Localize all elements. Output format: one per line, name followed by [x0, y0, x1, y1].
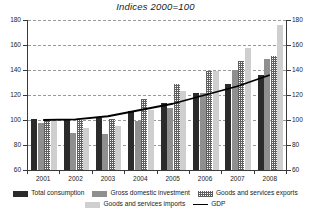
black-line-swatch: [193, 202, 208, 208]
legend-row-primary: Total consumptionGross domestic investme…: [0, 188, 311, 199]
x-axis-tick: [221, 170, 222, 174]
x-axis-tick-label: 2004: [124, 176, 156, 183]
hatched-swatch: [198, 191, 213, 197]
light-gray-swatch: [85, 202, 100, 208]
x-axis-tick-label: 2007: [221, 176, 253, 183]
x-axis-tick-label: 2005: [157, 176, 189, 183]
y-axis-tick-label: 160: [292, 42, 311, 49]
x-axis-tick-label: 2002: [59, 176, 91, 183]
x-axis-tick-label: 2003: [92, 176, 124, 183]
chart-legend: Total consumptionGross domestic investme…: [0, 188, 311, 210]
x-axis-tick: [124, 170, 125, 174]
x-axis-tick-label: 2008: [254, 176, 286, 183]
legend-item-label: Gross domestic investment: [110, 190, 190, 197]
x-axis-tick: [157, 170, 158, 174]
legend-row-secondary: Goods and services importsGDP: [0, 199, 311, 210]
y-axis-tick-right: [287, 120, 291, 121]
dark-solid-swatch: [13, 191, 28, 197]
y-axis-tick-right: [287, 45, 291, 46]
gdp-line-series: [27, 20, 286, 170]
y-axis-tick-right: [287, 20, 291, 21]
x-axis-tick-label: 2001: [27, 176, 59, 183]
legend-item[interactable]: Total consumption: [13, 190, 84, 197]
x-axis-tick: [254, 170, 255, 174]
legend-item[interactable]: Goods and services exports: [198, 190, 298, 197]
x-axis-tick: [59, 170, 60, 174]
chart-container: Indices 2000=100 60608080100100120120140…: [0, 0, 311, 214]
x-axis-tick: [189, 170, 190, 174]
y-axis-tick-label: 100: [292, 117, 311, 124]
y-axis-tick-label: 180: [0, 17, 21, 24]
gdp-line: [43, 75, 270, 120]
y-axis-tick-label: 100: [0, 117, 21, 124]
legend-item[interactable]: Gross domestic investment: [92, 190, 190, 197]
legend-item-label: Total consumption: [31, 190, 84, 197]
y-axis-tick-label: 140: [0, 67, 21, 74]
y-axis-tick-label: 160: [0, 42, 21, 49]
legend-item-label: Goods and services exports: [216, 190, 298, 197]
chart-title: Indices 2000=100: [0, 1, 311, 12]
legend-item-label: Goods and services imports: [103, 201, 185, 208]
y-axis-tick-right: [287, 145, 291, 146]
x-axis-tick: [286, 170, 287, 174]
y-axis-tick-label: 140: [292, 67, 311, 74]
y-axis-tick-label: 80: [0, 142, 21, 149]
y-axis-tick-label: 120: [292, 92, 311, 99]
y-axis-tick-right: [287, 95, 291, 96]
y-axis-tick-right: [287, 70, 291, 71]
y-axis-tick-label: 80: [292, 142, 311, 149]
x-axis-tick: [92, 170, 93, 174]
y-axis-tick-label: 60: [292, 167, 311, 174]
y-axis-tick-label: 120: [0, 92, 21, 99]
x-axis-tick-label: 2006: [189, 176, 221, 183]
legend-item[interactable]: Goods and services imports: [85, 201, 185, 208]
legend-item-label: GDP: [211, 201, 225, 208]
y-axis-tick-label: 60: [0, 167, 21, 174]
y-axis-tick-right: [287, 170, 291, 171]
legend-item[interactable]: GDP: [193, 201, 225, 208]
x-axis-tick: [27, 170, 28, 174]
gray-solid-swatch: [92, 191, 107, 197]
y-axis-tick-label: 180: [292, 17, 311, 24]
